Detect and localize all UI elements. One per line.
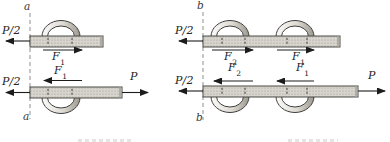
rivet-shank-arc-top-1 [211,21,249,37]
force-label-f1-top: F1 [52,51,65,62]
section-label-b-bottom: b [196,112,203,123]
cropped-caption-fragment [78,139,134,142]
section-label-a-top: a [24,1,30,12]
right-top-plate [203,36,340,47]
force-subscript: 1 [304,69,309,78]
force-label-p-right: P [368,70,376,81]
force-label-p-half-bottom-left: P/2 [175,75,194,86]
force-symbol: F [54,64,62,77]
plate-end-shade [119,88,122,98]
force-label-f1-bottom: F1 [54,65,67,76]
force-label-p-half-top-left: P/2 [2,25,21,36]
plate-end-shade [337,37,340,47]
force-label-p-half-top-left: P/2 [175,25,194,36]
force-subscript: 1 [62,72,67,81]
force-label-f2-bottom: F2 [228,62,241,73]
force-symbol: F [52,50,60,63]
force-label-p-half-bottom-left: P/2 [2,76,21,87]
right-diagram [179,12,385,120]
force-label-f1-bottom: F1 [296,62,309,73]
cropped-caption-fragment [288,139,338,142]
right-bottom-plate [203,86,358,97]
rivet-shank-arc-top [42,21,80,37]
left-top-plate [30,36,103,47]
rivet-shank-arc-bottom-2 [276,97,314,113]
force-label-p-right: P [130,71,138,82]
plate-end-shade [100,37,103,47]
force-symbol: F [296,61,304,74]
left-bottom-plate [30,87,122,98]
left-diagram [6,13,148,119]
plate-end-shade [355,87,358,97]
section-label-a-bottom: a [23,111,29,122]
figure-shear-connections: a P/2 F1 F1 P/2 P a b P/2 F2 F1 F2 F1 P/… [0,0,390,142]
force-symbol: F [228,61,236,74]
rivet-shank-arc-bottom [42,98,80,114]
rivet-shank-arc-top-2 [276,21,314,37]
rivet-shank-arc-bottom-1 [211,97,249,113]
force-subscript: 2 [236,69,241,78]
section-label-b-top: b [197,0,204,11]
